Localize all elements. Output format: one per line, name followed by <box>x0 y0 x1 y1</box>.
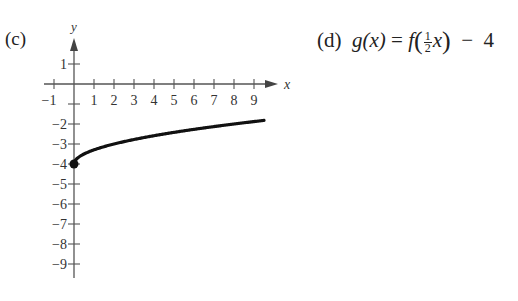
graph-c: xy−11234567891−2−3−4−5−6−7−8−9 <box>0 0 518 301</box>
x-tick-label: 6 <box>191 93 198 108</box>
x-tick-label: 3 <box>131 93 138 108</box>
x-tick-label: 9 <box>251 93 258 108</box>
y-axis-label: y <box>69 19 77 34</box>
x-axis-label: x <box>283 77 291 92</box>
y-tick-label: −8 <box>52 237 67 252</box>
y-tick-label: −3 <box>52 137 67 152</box>
x-tick-label: 4 <box>151 93 158 108</box>
y-tick-label: −2 <box>52 117 67 132</box>
y-tick-label: −7 <box>52 217 67 232</box>
y-tick-label: −4 <box>52 157 67 172</box>
y-tick-label: −9 <box>52 257 67 272</box>
x-axis-arrow-icon <box>265 80 278 88</box>
y-tick-label: −5 <box>52 177 67 192</box>
x-tick-label: 2 <box>111 93 118 108</box>
y-tick-label: −6 <box>52 197 67 212</box>
x-tick-label: 8 <box>231 93 238 108</box>
x-tick-label: 1 <box>91 93 98 108</box>
x-tick-label: 5 <box>171 93 178 108</box>
function-curve <box>74 120 264 164</box>
endpoint-dot <box>70 160 79 169</box>
x-tick-label: −1 <box>42 93 57 108</box>
x-tick-label: 7 <box>211 93 218 108</box>
y-tick-label: 1 <box>60 57 67 72</box>
y-axis-arrow-icon <box>70 38 78 51</box>
